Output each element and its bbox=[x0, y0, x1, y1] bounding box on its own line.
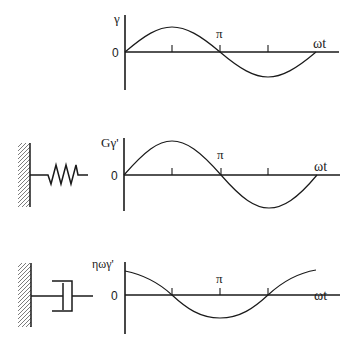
x-axis-label: ωt bbox=[314, 288, 327, 303]
spring-icon bbox=[30, 165, 88, 184]
pi-label: π bbox=[216, 271, 223, 286]
x-axis-label: ωt bbox=[313, 36, 326, 51]
pi-label: π bbox=[217, 147, 224, 162]
wall-hatching bbox=[18, 131, 30, 219]
origin-label: 0 bbox=[111, 289, 118, 303]
origin-label: 0 bbox=[112, 46, 119, 60]
strain-plot: γ 0 π ωt bbox=[112, 11, 339, 90]
x-axis-label: ωt bbox=[314, 159, 327, 174]
origin-label: 0 bbox=[111, 169, 118, 183]
dashpot-element bbox=[18, 250, 93, 339]
wall-hatching bbox=[18, 250, 31, 339]
y-axis-label: γ bbox=[113, 11, 120, 26]
elastic-stress-plot: Gγ' 0 π ωt bbox=[101, 135, 340, 211]
viscous-stress-plot: ηωγ' 0 π ωt bbox=[92, 257, 340, 334]
dashpot-icon bbox=[31, 281, 93, 311]
spring-element bbox=[18, 131, 88, 219]
pi-label: π bbox=[216, 26, 223, 41]
y-axis-label: ηωγ' bbox=[92, 257, 114, 271]
y-axis-label: Gγ' bbox=[101, 135, 118, 150]
